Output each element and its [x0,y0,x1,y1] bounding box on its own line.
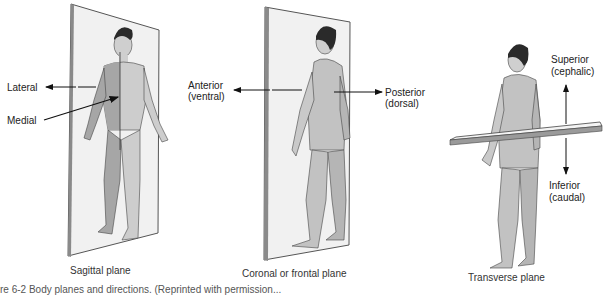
sagittal-panel [44,4,168,257]
coronal-panel [234,7,382,261]
superior-label: Superior [551,54,589,65]
superior-alt-label: (cephalic) [551,66,594,77]
body-planes-illustration [0,0,610,298]
medial-label: Medial [7,115,36,126]
inferior-label: Inferior [549,180,580,191]
transverse-panel [450,44,602,268]
transverse-plane-title: Transverse plane [468,272,545,283]
posterior-alt-label: (dorsal) [385,98,419,109]
coronal-plane-title: Coronal or frontal plane [242,268,347,279]
figure-caption: re 6-2 Body planes and directions. (Repr… [0,284,281,295]
sagittal-plane-title: Sagittal plane [70,265,131,276]
inferior-alt-label: (caudal) [549,192,585,203]
posterior-label: Posterior [385,87,425,98]
anterior-label: Anterior [188,80,223,91]
lateral-label: Lateral [7,82,38,93]
figure-posterior-oblique-view [482,44,540,268]
anterior-alt-label: (ventral) [188,91,225,102]
